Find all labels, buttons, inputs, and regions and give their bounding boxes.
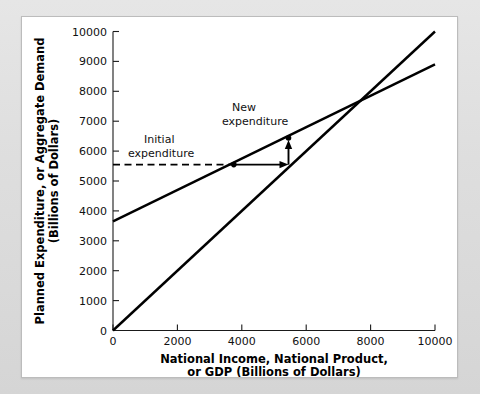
y-tick-label: 6000 bbox=[79, 145, 107, 158]
chart-panel: 10000 9000 8000 7000 6000 5000 4000 3000… bbox=[21, 16, 458, 378]
annotation-new-expenditure: New expenditure bbox=[222, 101, 288, 128]
y-tick-label: 5000 bbox=[79, 175, 107, 188]
y-axis-title: Planned Expenditure, or Aggregate Demand… bbox=[33, 38, 61, 325]
annotation-initial-expenditure: Initial expenditure bbox=[128, 133, 194, 160]
y-tick-label: 4000 bbox=[79, 205, 107, 218]
x-axis-ticks bbox=[113, 325, 435, 331]
y-axis-title-line1: Planned Expenditure, or Aggregate Demand bbox=[33, 38, 47, 325]
x-axis-title: National Income, National Product, or GD… bbox=[160, 352, 388, 377]
horizontal-income-arrow bbox=[234, 161, 289, 168]
y-tick-label: 0 bbox=[100, 325, 107, 338]
y-tick-label: 1000 bbox=[79, 295, 107, 308]
chart-figure: 10000 9000 8000 7000 6000 5000 4000 3000… bbox=[22, 17, 457, 377]
x-tick-label: 10000 bbox=[418, 335, 453, 348]
initial-expenditure-label-line2: expenditure bbox=[128, 147, 194, 160]
y-axis-tick-labels: 10000 9000 8000 7000 6000 5000 4000 3000… bbox=[72, 26, 107, 338]
screenshot-root: 10000 9000 8000 7000 6000 5000 4000 3000… bbox=[0, 0, 480, 394]
y-axis-title-line2: (Billions of Dollars) bbox=[47, 119, 61, 244]
y-tick-label: 10000 bbox=[72, 26, 107, 39]
x-axis-title-line2: or GDP (Billions of Dollars) bbox=[187, 365, 361, 377]
x-axis-title-line1: National Income, National Product, bbox=[160, 352, 388, 366]
vertical-expenditure-arrow bbox=[285, 140, 292, 165]
x-tick-label: 2000 bbox=[163, 335, 191, 348]
initial-expenditure-label-line1: Initial bbox=[144, 133, 174, 146]
series-45-degree-line bbox=[113, 32, 435, 331]
x-tick-label: 4000 bbox=[228, 335, 256, 348]
y-tick-label: 2000 bbox=[79, 265, 107, 278]
y-tick-label: 7000 bbox=[79, 115, 107, 128]
new-expenditure-label-line2: expenditure bbox=[222, 115, 288, 128]
x-tick-label: 8000 bbox=[357, 335, 385, 348]
y-tick-label: 8000 bbox=[79, 85, 107, 98]
x-tick-label: 6000 bbox=[292, 335, 320, 348]
initial-expenditure-point bbox=[231, 162, 237, 168]
x-tick-label: 0 bbox=[110, 335, 117, 348]
x-axis-tick-labels: 0 2000 4000 6000 8000 10000 bbox=[110, 335, 453, 348]
y-axis-ticks bbox=[113, 32, 119, 301]
y-tick-label: 9000 bbox=[79, 55, 107, 68]
y-tick-label: 3000 bbox=[79, 235, 107, 248]
new-expenditure-label-line1: New bbox=[232, 101, 256, 114]
new-expenditure-point bbox=[286, 135, 292, 141]
